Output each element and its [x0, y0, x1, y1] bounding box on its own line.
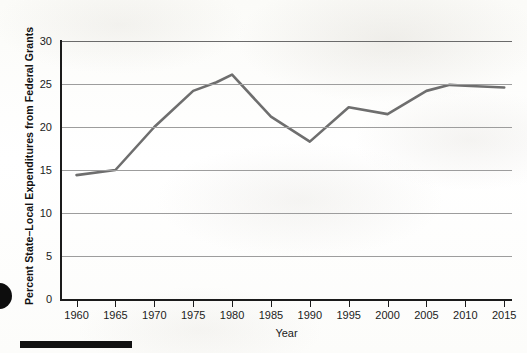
gridline-y-25 [61, 84, 512, 85]
y-axis-tick-labels: 051015202530 [0, 41, 52, 299]
x-tick-label-2010: 2010 [453, 309, 477, 321]
y-tick-label-0: 0 [46, 293, 52, 305]
x-axis-title: Year [61, 327, 512, 339]
x-tick-label-1975: 1975 [181, 309, 205, 321]
x-tick-label-1965: 1965 [103, 309, 127, 321]
y-tick-label-30: 30 [40, 35, 52, 47]
x-tick-mark-1975 [193, 301, 194, 307]
x-tick-label-2015: 2015 [492, 309, 516, 321]
x-tick-mark-2005 [426, 301, 427, 307]
x-tick-mark-2010 [465, 301, 466, 307]
x-tick-mark-1980 [232, 301, 233, 307]
y-tick-label-20: 20 [40, 121, 52, 133]
plot-area [61, 41, 512, 299]
gridline-y-10 [61, 213, 512, 214]
x-tick-mark-2015 [504, 301, 505, 307]
x-tick-label-2000: 2000 [375, 309, 399, 321]
gridline-y-20 [61, 127, 512, 128]
x-tick-label-1980: 1980 [220, 309, 244, 321]
x-tick-mark-2000 [388, 301, 389, 307]
x-tick-label-1985: 1985 [259, 309, 283, 321]
y-tick-label-5: 5 [46, 250, 52, 262]
x-tick-label-1960: 1960 [64, 309, 88, 321]
x-tick-label-2005: 2005 [414, 309, 438, 321]
line-chart: Percent State–Local Expenditures from Fe… [0, 0, 527, 353]
x-tick-mark-1985 [271, 301, 272, 307]
x-tick-label-1995: 1995 [336, 309, 360, 321]
y-axis-spine [60, 40, 62, 300]
chart-page: Percent State–Local Expenditures from Fe… [0, 0, 527, 353]
x-tick-mark-1995 [349, 301, 350, 307]
page-footer-rule [20, 341, 132, 348]
y-tick-label-10: 10 [40, 207, 52, 219]
gridline-y-30 [61, 41, 512, 42]
x-tick-label-1970: 1970 [142, 309, 166, 321]
x-tick-mark-1960 [77, 301, 78, 307]
x-tick-mark-1990 [310, 301, 311, 307]
x-tick-mark-1970 [154, 301, 155, 307]
x-tick-mark-1965 [115, 301, 116, 307]
x-axis-tick-marks [61, 301, 512, 308]
gridline-y-15 [61, 170, 512, 171]
x-axis-tick-labels: 1960196519701975198019851990199520002005… [61, 309, 512, 324]
x-tick-label-1990: 1990 [298, 309, 322, 321]
gridline-y-5 [61, 256, 512, 257]
y-tick-label-25: 25 [40, 78, 52, 90]
y-tick-label-15: 15 [40, 164, 52, 176]
